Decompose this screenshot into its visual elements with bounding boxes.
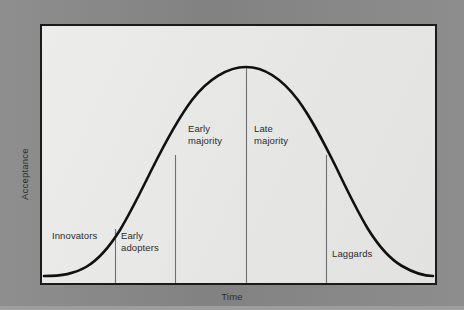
curve-layer — [40, 24, 437, 285]
segment-label-early-majority-line2: majority — [188, 135, 222, 147]
scan-bottom-strip — [0, 306, 464, 310]
x-axis-label: Time — [0, 291, 464, 302]
segment-label-laggards: Laggards — [332, 248, 372, 260]
segment-label-innovators: Innovators — [52, 230, 97, 242]
y-axis-label: Acceptance — [19, 110, 31, 200]
adoption-bell-curve — [44, 67, 433, 276]
segment-label-innovators-line1: Innovators — [52, 230, 97, 242]
segment-label-late-majority: Late majority — [254, 123, 288, 146]
segment-label-early-adopters-line1: Early — [121, 230, 159, 242]
segment-label-early-majority: Early majority — [188, 123, 222, 146]
segment-label-late-majority-line1: Late — [254, 123, 288, 135]
y-axis-label-text: Acceptance — [19, 188, 30, 200]
segment-label-early-adopters: Early adopters — [121, 230, 159, 253]
figure-screenshot: Innovators Early adopters Early majority… — [0, 0, 464, 310]
segment-label-laggards-line1: Laggards — [332, 248, 372, 260]
segment-label-early-majority-line1: Early — [188, 123, 222, 135]
segment-label-early-adopters-line2: adopters — [121, 242, 159, 254]
bell-curve-svg — [40, 24, 437, 285]
segment-label-late-majority-line2: majority — [254, 135, 288, 147]
x-axis-label-text: Time — [221, 291, 243, 302]
